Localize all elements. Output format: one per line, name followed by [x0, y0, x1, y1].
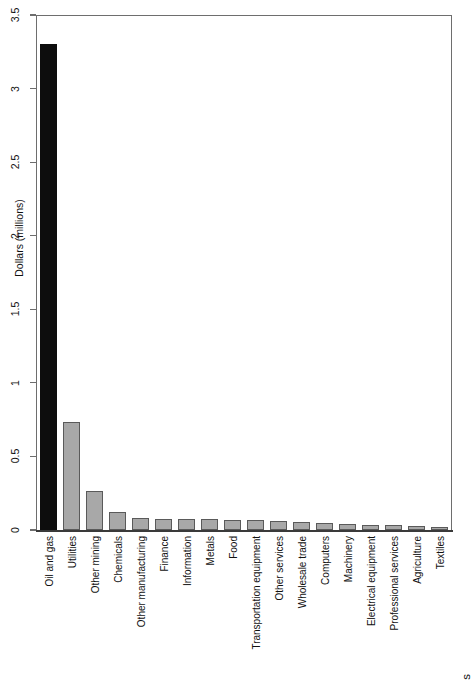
x-axis-label: Other mining [83, 534, 106, 674]
x-axis-label-text: Wholesale trade [296, 536, 307, 608]
x-axis-label-text: Agriculture [411, 536, 422, 584]
x-axis-label-text: Oil and gas [43, 536, 54, 587]
x-axis-label: Oil and gas [37, 534, 60, 674]
bar [316, 523, 332, 530]
bar [293, 522, 309, 530]
bar-column [178, 15, 194, 530]
bar-column [362, 15, 378, 530]
bar-column [316, 15, 332, 530]
x-axis-label-text: Finance [158, 536, 169, 572]
x-axis-label: Finance [152, 534, 175, 674]
x-axis-label-text: Chemicals [112, 536, 123, 583]
bar-column [132, 15, 148, 530]
bar [178, 519, 194, 530]
bar-series [37, 15, 451, 530]
x-axis-label: Information [175, 534, 198, 674]
bar-column [40, 15, 56, 530]
x-axis-label-text: Utilities [66, 536, 77, 568]
bar [431, 527, 447, 530]
x-axis-label: Agriculture [405, 534, 428, 674]
x-axis-label: Electrical equipment [359, 534, 382, 674]
y-axis-tick-label: 3 [3, 77, 27, 101]
x-axis-line [36, 530, 453, 532]
y-axis-tick-mark [30, 382, 36, 383]
y-axis-tick-mark [30, 529, 36, 530]
x-axis-label-text: Food [227, 536, 238, 559]
x-axis-label-text: Computers [319, 536, 330, 585]
y-axis-tick-mark [30, 14, 36, 15]
bar [201, 519, 217, 530]
y-axis-tick-mark [30, 235, 36, 236]
x-axis-label: Other manufacturing [129, 534, 152, 674]
x-axis-label-text: Other manufacturing [135, 536, 146, 627]
y-axis-tick-label: 2 [3, 224, 27, 248]
x-axis-label: Textiles [428, 534, 451, 674]
bar [270, 521, 286, 530]
bar [247, 520, 263, 530]
bar-column [86, 15, 102, 530]
x-axis-label-text: Transportation equipment [250, 536, 261, 650]
x-axis-label: Computers [313, 534, 336, 674]
y-axis-tick-mark [30, 456, 36, 457]
x-axis-label: Other services [267, 534, 290, 674]
x-axis-label: Chemicals [106, 534, 129, 674]
bar-column [247, 15, 263, 530]
x-axis-label: Food [221, 534, 244, 674]
x-axis-label: Wholesale trade [290, 534, 313, 674]
bar-column [293, 15, 309, 530]
bar [63, 422, 79, 530]
y-axis-tick-label: 1.5 [3, 297, 27, 321]
bar-column [155, 15, 171, 530]
bar [224, 520, 240, 530]
x-axis-label-text: Electrical equipment [365, 536, 376, 626]
y-axis-tick-label: 1 [3, 371, 27, 395]
x-axis-label: Utilities [60, 534, 83, 674]
x-axis-label: Professional services [382, 534, 405, 674]
bar-column [63, 15, 79, 530]
bar [132, 518, 148, 530]
y-axis-tick-label: 0 [3, 518, 27, 542]
bar-column [109, 15, 125, 530]
y-axis-tick-mark [30, 88, 36, 89]
x-axis-label-text: Other services [273, 536, 284, 600]
y-axis-tick-mark [30, 162, 36, 163]
x-axis-label-text: Other mining [89, 536, 100, 593]
bar [362, 525, 378, 530]
x-axis-label-text: Metals [204, 536, 215, 565]
bar-column [201, 15, 217, 530]
x-axis-label: Transportation equipment [244, 534, 267, 674]
bar-chart: Dollars (millions) 00.511.522.533.5 Oil … [0, 0, 456, 680]
bar-column [339, 15, 355, 530]
bar [339, 524, 355, 530]
bar-column [431, 15, 447, 530]
x-axis-labels: Oil and gasUtilitiesOther miningChemical… [37, 534, 451, 674]
bar [109, 512, 125, 530]
bar-column [408, 15, 424, 530]
x-axis-label: Machinery [336, 534, 359, 674]
x-axis-label-text: Information [181, 536, 192, 586]
bar [155, 519, 171, 530]
bar [40, 44, 56, 530]
x-axis-label-text: Professional services [388, 536, 399, 630]
y-axis-tick-label: 0.5 [3, 444, 27, 468]
bar-column [385, 15, 401, 530]
bar [385, 525, 401, 530]
y-axis-tick-label: 3.5 [3, 3, 27, 27]
y-axis-tick-label: 2.5 [3, 150, 27, 174]
bar-column [224, 15, 240, 530]
bar [86, 491, 102, 530]
figure-caption: Figure 2.7. Capital-to-labor ratios in m… [460, 674, 472, 680]
x-axis-label: Metals [198, 534, 221, 674]
y-axis-tick-mark [30, 309, 36, 310]
bar-column [270, 15, 286, 530]
bar [408, 526, 424, 530]
x-axis-label-text: Textiles [434, 536, 445, 569]
x-axis-label-text: Machinery [342, 536, 353, 582]
